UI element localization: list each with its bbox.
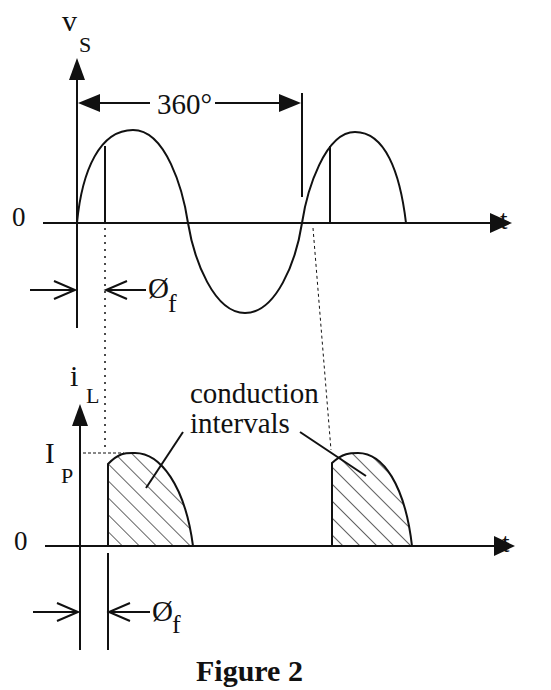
firing-angle-subscript-top: f	[168, 289, 177, 318]
period-arrow-left-icon	[78, 94, 100, 112]
annotation-intervals: intervals	[190, 407, 290, 439]
zero-label-top: 0	[12, 202, 26, 232]
bottom-plot: conduction intervals i L I P 0 t Ø f	[14, 359, 515, 650]
conduction-interval-1	[108, 453, 193, 546]
vs-label: v	[62, 4, 77, 37]
vs-subscript: S	[79, 32, 91, 57]
source-voltage-waveform	[77, 130, 406, 313]
il-label: i	[70, 359, 78, 392]
period-label: 360°	[157, 88, 212, 120]
firing-angle-label-bottom: Ø	[152, 595, 173, 627]
figure-2-diagram: 360° v S 0 t Ø f conduction inte	[0, 0, 551, 690]
period-arrow-right-icon	[279, 94, 301, 112]
projection-line-2	[313, 228, 331, 450]
peak-current-label: I	[45, 437, 55, 469]
zero-label-bottom: 0	[14, 526, 28, 556]
conduction-interval-2	[332, 453, 412, 546]
t-label-top: t	[500, 205, 508, 235]
firing-angle-subscript-bottom: f	[172, 610, 181, 639]
firing-angle-label-top: Ø	[148, 272, 169, 304]
peak-current-subscript: P	[61, 463, 73, 488]
figure-caption: Figure 2	[196, 654, 303, 687]
t-label-bottom: t	[502, 528, 510, 558]
vs-axis-arrow-icon	[69, 58, 85, 80]
il-subscript: L	[86, 383, 99, 408]
annotation-conduction: conduction	[190, 377, 319, 409]
